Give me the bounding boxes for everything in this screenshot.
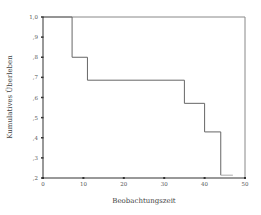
y-tick-label: ,2 bbox=[33, 175, 38, 181]
x-tick-label: 0 bbox=[41, 181, 45, 187]
y-tick-mark bbox=[41, 157, 44, 159]
x-tick-label: 10 bbox=[80, 181, 87, 187]
x-tick-mark bbox=[82, 177, 84, 179]
axes bbox=[43, 17, 245, 178]
x-tick-label: 50 bbox=[242, 181, 249, 187]
x-tick-mark bbox=[123, 177, 125, 179]
x-tick-mark bbox=[244, 177, 246, 179]
plot-frame bbox=[43, 17, 245, 178]
y-tick-label: ,7 bbox=[33, 74, 39, 80]
y-axis-ticks: ,2,3,4,5,6,7,8,91,0 bbox=[29, 14, 43, 181]
y-tick-mark bbox=[41, 177, 44, 179]
x-tick-label: 30 bbox=[161, 181, 168, 187]
y-tick-label: ,8 bbox=[33, 54, 39, 60]
y-tick-mark bbox=[41, 117, 44, 119]
y-tick-label: ,4 bbox=[33, 135, 39, 141]
survival-step-line bbox=[43, 17, 221, 175]
x-tick-mark bbox=[204, 177, 206, 179]
frame-border bbox=[43, 17, 245, 178]
y-axis-title: Kumulatives Überleben bbox=[5, 55, 14, 139]
x-tick-label: 40 bbox=[201, 181, 208, 187]
y-tick-label: ,3 bbox=[33, 155, 39, 161]
y-tick-label: ,6 bbox=[33, 95, 39, 101]
y-tick-label: 1,0 bbox=[29, 14, 38, 20]
y-tick-mark bbox=[41, 36, 44, 38]
y-tick-mark bbox=[41, 16, 44, 18]
survival-curve bbox=[43, 17, 233, 175]
kaplan-meier-chart: 01020304050 ,2,3,4,5,6,7,8,91,0 Beobacht… bbox=[0, 0, 261, 215]
x-tick-label: 20 bbox=[120, 181, 127, 187]
y-tick-mark bbox=[41, 57, 44, 59]
y-tick-mark bbox=[41, 77, 44, 79]
x-axis-title: Beobachtungszeit bbox=[112, 197, 176, 205]
x-tick-mark bbox=[163, 177, 165, 179]
y-tick-mark bbox=[41, 97, 44, 99]
y-tick-label: ,9 bbox=[33, 34, 39, 40]
y-tick-mark bbox=[41, 137, 44, 139]
y-tick-label: ,5 bbox=[33, 115, 39, 121]
